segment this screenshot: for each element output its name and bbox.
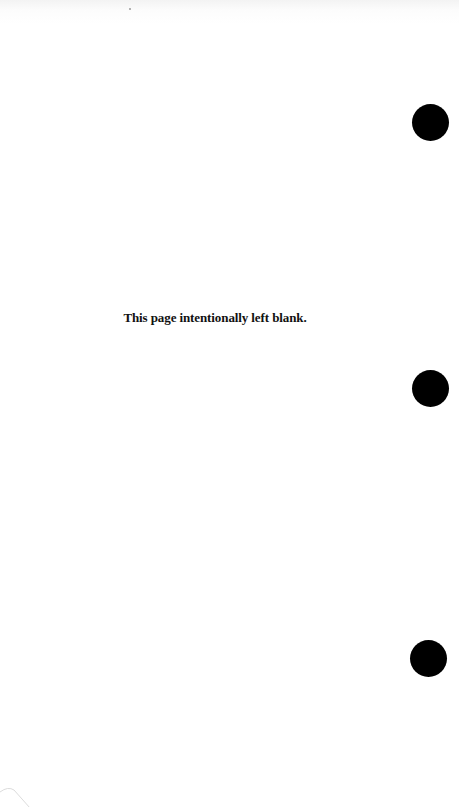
punch-hole-bottom	[410, 640, 447, 677]
scan-speck	[129, 8, 131, 10]
blank-page-notice: This page intentionally left blank.	[0, 310, 430, 326]
punch-hole-middle	[412, 370, 449, 407]
scanned-page: This page intentionally left blank.	[0, 0, 459, 807]
punch-hole-top	[412, 104, 449, 141]
page-corner-crease	[0, 780, 40, 807]
